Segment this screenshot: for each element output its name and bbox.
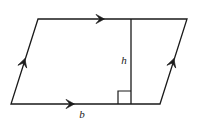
parallelogram-diagram-svg: h b bbox=[0, 0, 197, 123]
parallelogram-figure: h b bbox=[0, 0, 197, 123]
base-label: b bbox=[79, 108, 85, 120]
height-label: h bbox=[121, 54, 127, 66]
